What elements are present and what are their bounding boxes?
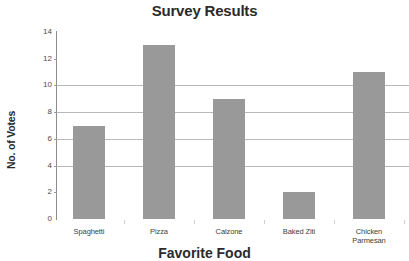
y-axis-tick-labels: 02468101214 <box>28 32 52 219</box>
bar <box>73 126 105 220</box>
y-axis-title-wrapper: No. of Votes <box>2 80 20 200</box>
y-tick-label: 4 <box>32 162 52 170</box>
x-category-label: Calzone <box>194 227 264 236</box>
bar <box>283 192 315 219</box>
x-axis-title: Favorite Food <box>0 245 409 261</box>
x-category-label-line: Baked Ziti <box>264 227 334 236</box>
x-category-label-line: Pizza <box>124 227 194 236</box>
y-tick-mark <box>54 192 57 193</box>
y-tick-mark <box>54 166 57 167</box>
y-tick-mark <box>54 139 57 140</box>
x-tick-mark <box>124 220 125 224</box>
chart-title: Survey Results <box>0 2 409 19</box>
x-category-label-line: Calzone <box>194 227 264 236</box>
x-tick-mark <box>264 220 265 224</box>
y-axis-title: No. of Votes <box>5 111 17 169</box>
y-tick-label: 10 <box>32 81 52 89</box>
x-tick-mark <box>194 220 195 224</box>
y-tick-label: 8 <box>32 108 52 116</box>
x-category-label: ChickenParmesan <box>334 227 404 245</box>
x-category-label: Baked Ziti <box>264 227 334 236</box>
y-tick-mark <box>54 59 57 60</box>
x-category-label-line: Parmesan <box>334 236 404 245</box>
y-tick-label: 0 <box>32 215 52 223</box>
plot-area <box>57 32 409 219</box>
y-tick-label: 12 <box>32 55 52 63</box>
y-tick-label: 6 <box>32 135 52 143</box>
bar <box>353 72 385 219</box>
y-tick-label: 2 <box>32 188 52 196</box>
x-tick-mark <box>404 220 405 224</box>
x-category-label: Pizza <box>124 227 194 236</box>
x-category-label-line: Chicken <box>334 227 404 236</box>
x-category-label-line: Spaghetti <box>54 227 124 236</box>
y-tick-mark <box>54 112 57 113</box>
x-category-label: Spaghetti <box>54 227 124 236</box>
y-tick-mark <box>54 85 57 86</box>
x-tick-mark <box>334 220 335 224</box>
bar <box>213 99 245 219</box>
bar <box>143 45 175 219</box>
y-tick-label: 14 <box>32 28 52 36</box>
